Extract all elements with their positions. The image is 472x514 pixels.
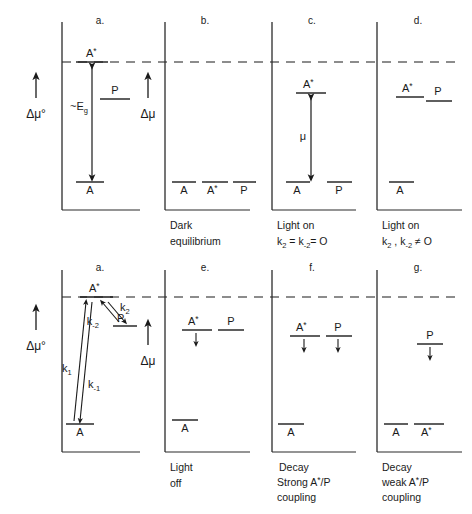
figure-svg: a. Δμ° A* P A ~ — [0, 0, 472, 514]
panel-letter-e-bottom: e. — [201, 262, 209, 273]
level-label-a: A — [76, 426, 84, 438]
panel-letter-a-bottom: a. — [96, 262, 104, 273]
panel-c-caption-line-1: Light on — [277, 219, 315, 231]
level-label-a: A — [86, 184, 94, 196]
canvas-background — [0, 0, 472, 514]
panel-b-caption-line-2: equilibrium — [170, 235, 221, 247]
panel-g-caption-line-2: weak A*/P — [381, 475, 429, 488]
panel-letter-b-top: b. — [201, 15, 209, 26]
level-label-a: A — [287, 426, 295, 438]
level-label-p: P — [227, 315, 234, 327]
axis-label-text-delta-mu-standard: Δμ° — [26, 107, 46, 121]
axis-label-text-delta-mu: Δμ — [141, 107, 156, 121]
level-label-p: P — [335, 184, 342, 196]
figure-root: a. Δμ° A* P A ~ — [0, 0, 472, 514]
level-label-a: A — [180, 184, 188, 196]
panel-letter-c-top: c. — [308, 15, 316, 26]
level-label-p: P — [240, 184, 247, 196]
panel-e-caption-line-2: off — [170, 477, 182, 489]
panel-d-caption-line-1: Light on — [382, 219, 420, 231]
level-label-a: A — [293, 184, 301, 196]
panel-e-caption-line-1: Light — [170, 461, 193, 473]
panel-letter-f-bottom: f. — [309, 262, 315, 273]
level-label-p: P — [434, 85, 441, 97]
level-label-a: A — [396, 184, 404, 196]
panel-b-caption-line-1: Dark — [170, 219, 193, 231]
panel-f-caption-line-2: Strong A*/P — [277, 475, 331, 488]
gap-label-mu: μ — [300, 130, 306, 142]
level-label-p: P — [426, 329, 433, 341]
level-label-p: P — [334, 321, 341, 333]
axis-label-text-delta-mu: Δμ — [141, 354, 156, 368]
panel-letter-g-bottom: g. — [414, 262, 422, 273]
panel-f-caption-line-3: coupling — [277, 491, 316, 503]
level-label-p: P — [111, 84, 118, 96]
level-label-a: A — [181, 422, 189, 434]
axis-label-text-delta-mu-standard: Δμ° — [26, 339, 46, 353]
panel-letter-a-top: a. — [96, 15, 104, 26]
panel-g-caption-line-3: coupling — [382, 491, 421, 503]
level-label-a: A — [392, 426, 400, 438]
panel-f-caption-line-1: Decay — [279, 461, 310, 473]
panel-g-caption-line-1: Decay — [382, 461, 413, 473]
panel-letter-d-top: d. — [414, 15, 422, 26]
